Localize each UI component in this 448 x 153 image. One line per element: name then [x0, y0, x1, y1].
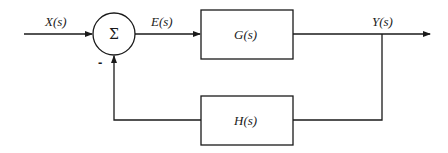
feedback-return-line: [114, 56, 201, 120]
error-label: E(s): [151, 15, 173, 28]
input-label: X(s): [45, 15, 67, 28]
feedback-minus-sign: -: [98, 56, 102, 69]
block-diagram: X(s) Σ - E(s) G(s) Y(s) H(s): [0, 0, 448, 153]
forward-block-label: G(s): [234, 28, 257, 41]
feedback-block-label: H(s): [234, 114, 257, 127]
feedback-branch-line: [293, 34, 382, 120]
sigma-symbol: Σ: [109, 27, 119, 41]
output-label: Y(s): [372, 15, 393, 28]
